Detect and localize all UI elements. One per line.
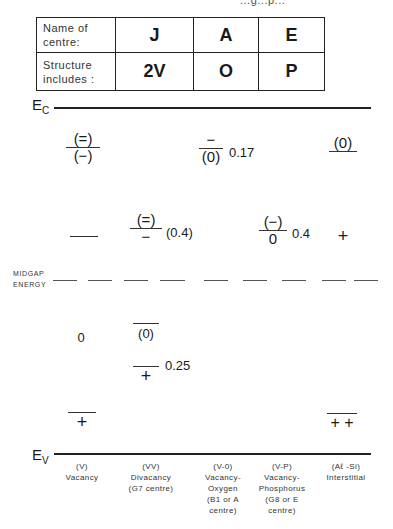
valence-band-line (54, 453, 371, 455)
divacancy-donor-level: + (133, 366, 159, 385)
centre-table: Name of centre: J A E Structure includes… (36, 17, 325, 91)
vacancy-oxygen-energy: 0.17 (229, 145, 254, 160)
vacancy-phosphorus-level: (−) 0 (259, 214, 287, 247)
interstitial-mid-charge: + (333, 228, 353, 244)
row-label-structure: Structure includes : (37, 53, 116, 91)
divacancy-donor-energy: 0.25 (165, 358, 190, 373)
midgap-energy-label: MIDGAP ENERGY (13, 268, 46, 290)
vacancy-mid-level (70, 236, 98, 237)
cell-structure-p: P (259, 53, 325, 91)
midgap-dash (160, 280, 185, 281)
midgap-dash (354, 280, 378, 281)
divacancy-upper-energy: (0.4) (166, 225, 193, 240)
midgap-dash (53, 280, 77, 281)
vacancy-donor-level: + (68, 412, 96, 431)
defect-caption-vacancy-phosphorus: (V-P) Vacancy- Phosphorus (G8 or E centr… (254, 461, 310, 516)
midgap-dash (88, 280, 112, 281)
cropped-header-text: ...g...p... (240, 0, 285, 6)
cell-name-j: J (116, 18, 194, 53)
table-row-structure: Structure includes : 2V O P (37, 53, 325, 91)
interstitial-top-level: (0) (329, 135, 357, 152)
defect-caption-divacancy: (VV) Divacancy (G7 centre) (120, 461, 182, 494)
conduction-band-label: EC (32, 96, 49, 116)
vacancy-phosphorus-energy: 0.4 (292, 226, 310, 241)
divacancy-upper-level: (=) − (130, 212, 162, 245)
midgap-dash (282, 280, 306, 281)
valence-band-label: EV (32, 446, 49, 466)
table-row-name: Name of centre: J A E (37, 18, 325, 53)
midgap-dash (124, 280, 148, 281)
vacancy-neutral-level: 0 (74, 330, 88, 346)
interstitial-double-donor-level: + + (327, 413, 357, 432)
defect-caption-vacancy: (V) Vacancy (60, 461, 104, 483)
vacancy-upper-level: (=) (−) (66, 131, 100, 164)
vacancy-oxygen-level: − (0) (199, 132, 223, 165)
cell-structure-o: O (194, 53, 259, 91)
divacancy-neutral-level: (0) (133, 323, 159, 342)
cell-structure-2v: 2V (116, 53, 194, 91)
midgap-dash (243, 280, 267, 281)
defect-caption-interstitial: (Aℓ -Si) Interstitial (320, 461, 372, 483)
defect-caption-vacancy-oxygen: (V-0) Vacancy- Oxygen (B1 or A centre) (200, 461, 246, 516)
row-label-name: Name of centre: (37, 18, 116, 53)
cell-name-e: E (259, 18, 325, 53)
cell-name-a: A (194, 18, 259, 53)
midgap-dash (204, 280, 228, 281)
midgap-dash (322, 280, 346, 281)
conduction-band-line (54, 107, 371, 109)
